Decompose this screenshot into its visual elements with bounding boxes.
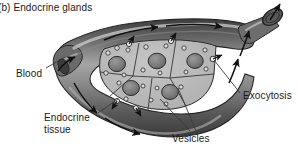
vesicle (115, 46, 120, 51)
nucleus-cell-2 (148, 53, 166, 69)
vesicle (106, 51, 110, 55)
vesicle (124, 97, 128, 101)
vesicle (203, 48, 207, 52)
vesicle (184, 70, 188, 74)
label-endocrine-tissue: Endocrine tissue (44, 112, 90, 136)
label-endocrine-tissue-line-2: tissue (44, 124, 90, 136)
nucleus-cell-5 (162, 85, 179, 100)
nucleus-cell-1 (109, 56, 126, 71)
vesicle (144, 45, 148, 49)
label-endocrine-tissue-line-1: Endocrine (44, 112, 90, 124)
vesicle (117, 81, 121, 85)
vesicle (141, 68, 145, 72)
flow-arrow-right-low (229, 59, 238, 83)
vesicle (179, 85, 183, 89)
nucleus-cell-3 (187, 54, 203, 69)
vesicle (158, 71, 162, 75)
vesicle (182, 46, 186, 50)
vesicle (149, 98, 153, 102)
label-exocytosis: Exocytosis (243, 90, 292, 102)
vesicle (155, 86, 159, 90)
vesicle (126, 48, 130, 52)
endocrine-glands-figure: (b) Endocrine glands (0, 0, 298, 153)
vesicle (204, 67, 208, 71)
vesicle (141, 84, 145, 88)
vesicle (104, 71, 108, 75)
nucleus-cell-4 (123, 81, 140, 96)
label-blood: Blood (16, 68, 42, 80)
vesicle (164, 44, 168, 48)
label-vesicles: Vesicles (172, 133, 210, 145)
vesicle (122, 73, 126, 77)
